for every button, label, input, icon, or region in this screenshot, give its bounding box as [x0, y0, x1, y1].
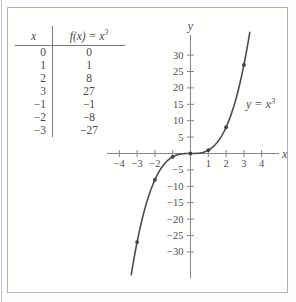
data-point [242, 63, 246, 67]
y-tick-label: −5 [172, 164, 183, 175]
y-tick-label: −10 [167, 181, 183, 192]
x-tick-label: −2 [149, 158, 160, 169]
x-tick-label: 1 [206, 158, 211, 169]
y-tick-label: −15 [167, 197, 183, 208]
x-tick-label: 4 [259, 158, 265, 169]
y-tick-label: 10 [173, 115, 184, 126]
cubic-function-graph: −4−3−2123430252015105−5−10−15−20−25−30xy… [0, 0, 296, 302]
data-point [135, 240, 139, 244]
x-tick-label: −4 [114, 158, 126, 169]
y-tick-label: 5 [178, 132, 183, 143]
y-axis-letter: y [187, 19, 194, 33]
y-tick-label: −20 [167, 214, 183, 225]
x-axis-letter: x [281, 147, 288, 161]
y-tick-label: 15 [173, 99, 184, 110]
y-tick-label: −30 [167, 246, 183, 257]
data-point [171, 155, 175, 159]
y-tick-label: 30 [173, 50, 184, 61]
y-tick-label: −25 [167, 230, 183, 241]
data-point [206, 148, 210, 152]
curve-equation-label: y = x3 [245, 96, 276, 111]
figure-page: x f(x) = x3 001128327−1−1−2−8−3−27 −4−3−… [0, 0, 296, 302]
data-point [153, 178, 157, 182]
y-tick-label: 25 [173, 66, 184, 77]
x-tick-label: 3 [241, 158, 246, 169]
data-point [189, 152, 193, 156]
x-tick-label: 2 [223, 158, 228, 169]
data-point [224, 125, 228, 129]
y-tick-label: 20 [173, 82, 184, 93]
x-tick-label: −3 [132, 158, 143, 169]
